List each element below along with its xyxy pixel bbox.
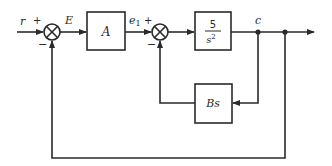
sum1-minus-sign: − (38, 38, 47, 51)
pickoff-point-c (255, 29, 260, 34)
error-label-E: E (64, 14, 73, 27)
e1-label: e1 (129, 14, 141, 28)
pickoff-point-outer (282, 29, 287, 34)
controller-label-A: A (101, 25, 111, 39)
sum1-plus-sign: + (33, 15, 41, 26)
block-diagram: r + − E A e1 + − 5 s2 c Bs (0, 0, 332, 166)
input-label-r: r (20, 15, 26, 28)
plant-numerator: 5 (210, 19, 216, 30)
feedback-label-Bs: Bs (205, 97, 220, 110)
outer-feedback-path (52, 32, 285, 158)
inner-feedback-path-to-sum (160, 41, 195, 103)
sum2-minus-sign: − (147, 38, 156, 51)
inner-feedback-path-to-block (233, 32, 258, 103)
output-label-c: c (255, 14, 261, 27)
sum2-plus-sign: + (144, 15, 152, 26)
